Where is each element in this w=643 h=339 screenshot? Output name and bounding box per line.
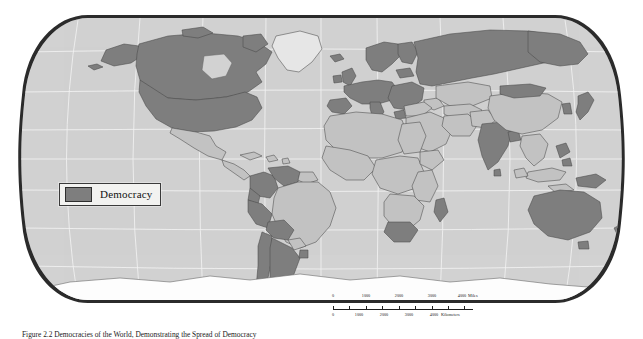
scale-tick-mark <box>399 306 400 310</box>
scale-km-unit: Kilometers <box>441 312 460 317</box>
scale-bar-kilometers: 0 1000 2000 3000 4000 Kilometers <box>329 313 479 323</box>
scale-km-tick-3: 3000 <box>405 312 413 317</box>
scale-bar: 0 1000 2000 3000 4000 Miles 0 <box>329 294 479 316</box>
scale-miles-unit: Miles <box>468 293 478 298</box>
scale-km-tick-0: 0 <box>332 312 334 317</box>
legend-label-democracy: Democracy <box>100 189 153 200</box>
region-tasmania <box>578 241 589 249</box>
scale-tick-mark <box>415 306 416 310</box>
scale-miles-tick-3: 3000 <box>428 293 436 298</box>
world-map: Democracy 0 1000 2000 3000 4000 Miles <box>0 0 643 322</box>
scale-tick-mark <box>464 306 465 310</box>
scale-miles-tick-4: 4000 <box>458 293 466 298</box>
map-canvas <box>0 0 643 322</box>
region-ireland <box>333 75 342 83</box>
map-legend: Democracy <box>59 183 161 206</box>
figure-caption: Figure 2.2 Democracies of the World, Dem… <box>22 330 622 339</box>
scale-miles-tick-1: 1000 <box>362 293 370 298</box>
scale-bar-miles: 0 1000 2000 3000 4000 Miles <box>329 294 479 304</box>
scale-tick-mark <box>448 306 449 310</box>
region-mongolia <box>500 84 546 98</box>
scale-tick-mark <box>333 306 334 310</box>
region-korea <box>562 103 572 114</box>
scale-tick-mark <box>382 306 383 310</box>
scale-km-tick-1: 1000 <box>355 312 363 317</box>
scale-km-tick-4: 4000 <box>430 312 438 317</box>
scale-tick-mark <box>432 306 433 310</box>
scale-miles-tick-0: 0 <box>332 293 334 298</box>
region-sri-lanka <box>494 169 501 176</box>
scale-axis-line <box>333 309 473 310</box>
scale-tick-mark <box>349 306 350 310</box>
legend-swatch-democracy <box>65 187 92 202</box>
scale-miles-tick-2: 2000 <box>395 293 403 298</box>
scale-km-tick-2: 2000 <box>380 312 388 317</box>
scale-tick-mark <box>366 306 367 310</box>
region-uruguay <box>299 250 308 258</box>
